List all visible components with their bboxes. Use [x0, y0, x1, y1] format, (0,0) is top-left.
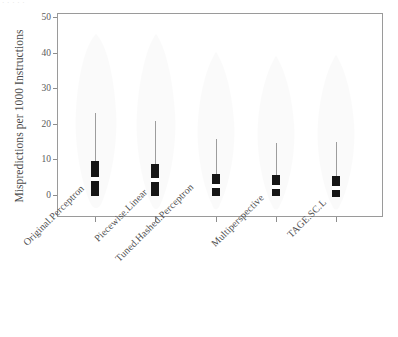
- y-tick-label-40: 40: [29, 48, 51, 58]
- y-tick-label-20: 20: [29, 119, 51, 129]
- median-line-4: [332, 186, 340, 190]
- y-tick-label-10: 10: [29, 154, 51, 164]
- median-line-3: [272, 185, 280, 189]
- boxplot-figure: · · · · · Mispredictions per 1000 Instru…: [0, 0, 398, 337]
- y-tick-label-30: 30: [29, 83, 51, 93]
- x-tick-mark-4: [336, 217, 337, 222]
- x-tick-mark-2: [216, 217, 217, 222]
- plot-panel: [57, 13, 383, 217]
- median-line-1: [151, 178, 159, 182]
- x-tick-mark-3: [276, 217, 277, 222]
- median-line-2: [212, 184, 220, 188]
- y-tick-label-0: 0: [29, 190, 51, 200]
- y-axis-title: Mispredictions per 1000 Instructions: [13, 6, 25, 226]
- y-tick-label-50: 50: [29, 12, 51, 22]
- median-line-0: [91, 177, 99, 181]
- x-tick-mark-0: [95, 217, 96, 222]
